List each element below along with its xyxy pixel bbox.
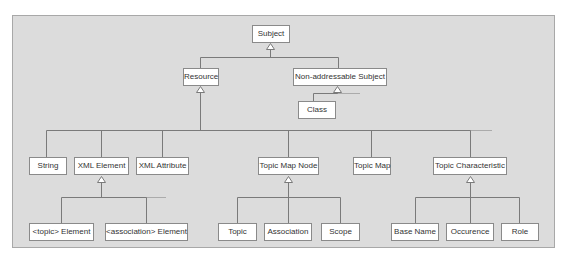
inheritance-arrow-icon xyxy=(98,177,106,183)
node-topic-element: <topic> Element xyxy=(29,223,94,241)
node-xml-element: XML Element xyxy=(74,157,129,175)
node-class: Class xyxy=(298,101,336,119)
node-xml-attribute: XML Attribute xyxy=(136,157,189,175)
node-resource: Resource xyxy=(183,68,219,86)
node-string: String xyxy=(29,157,67,175)
node-non-addressable-subject: Non-addressable Subject xyxy=(293,68,387,86)
inheritance-arrow-icon xyxy=(285,177,293,183)
node-subject: Subject xyxy=(252,25,290,43)
inheritance-arrow-icon xyxy=(197,87,205,93)
inheritance-arrow-icon xyxy=(334,87,342,93)
node-base-name: Base Name xyxy=(391,223,439,241)
node-topic: Topic xyxy=(218,223,257,241)
node-topic-map: Topic Map xyxy=(353,157,391,175)
inheritance-arrow-icon xyxy=(267,44,275,50)
node-association: Association xyxy=(264,223,312,241)
node-occurence: Occurence xyxy=(446,223,494,241)
node-role: Role xyxy=(501,223,539,241)
node-association-element: <association> Element xyxy=(105,223,188,241)
node-scope: Scope xyxy=(321,223,360,241)
inheritance-arrow-icon xyxy=(467,177,475,183)
node-topic-characteristic: Topic Characteristic xyxy=(433,157,507,175)
node-topic-map-node: Topic Map Node xyxy=(258,157,319,175)
